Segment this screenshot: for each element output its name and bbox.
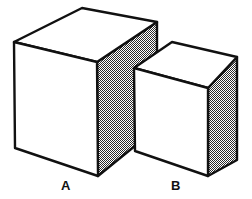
block-b-front-left-face — [134, 68, 208, 176]
block-a-front-left-face — [14, 42, 98, 176]
figure-canvas: A B — [0, 0, 252, 199]
blocks-illustration — [0, 0, 252, 199]
block-a-label: A — [61, 179, 71, 192]
block-b — [134, 42, 237, 176]
block-b-label: B — [171, 179, 181, 192]
